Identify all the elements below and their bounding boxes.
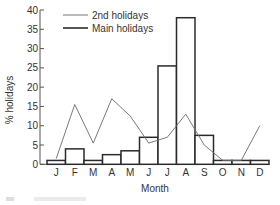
y-tick-label: 30 (27, 43, 39, 54)
x-tick-label: D (256, 167, 263, 178)
y-axis: 0510152025303540 (27, 5, 47, 170)
bar-0 (47, 160, 66, 164)
x-tick-label: A (108, 167, 115, 178)
y-tick-label: 0 (32, 159, 38, 170)
bar-7 (177, 18, 196, 165)
x-tick-label: J (146, 167, 151, 178)
y-tick-label: 15 (27, 101, 39, 112)
x-tick-label: M (89, 167, 97, 178)
x-tick-label: M (126, 167, 134, 178)
y-tick-label: 10 (27, 120, 39, 131)
y-tick-label: 40 (27, 5, 39, 16)
x-tick-label: O (219, 167, 227, 178)
x-axis: JFMAMJJASOND (54, 167, 264, 178)
main-holidays-bars (47, 18, 269, 165)
x-tick-label: J (165, 167, 170, 178)
legend: 2nd holidaysMain holidays (63, 10, 153, 34)
bar-3 (103, 155, 122, 165)
bar-4 (121, 151, 140, 165)
bar-1 (66, 149, 85, 164)
x-axis-label: Month (141, 183, 169, 194)
y-tick-label: 35 (27, 24, 39, 35)
x-tick-label: J (54, 167, 59, 178)
y-tick-label: 20 (27, 82, 39, 93)
figure-caption-fragment (6, 197, 86, 201)
holidays-chart: 0510152025303540 JFMAMJJASOND 2nd holida… (0, 0, 280, 205)
x-tick-label: S (201, 167, 208, 178)
bar-2 (84, 160, 103, 164)
legend-label-main: Main holidays (92, 23, 153, 34)
bar-10 (232, 160, 251, 164)
y-tick-label: 25 (27, 62, 39, 73)
bar-6 (158, 66, 177, 164)
x-tick-label: A (182, 167, 189, 178)
bar-11 (251, 160, 270, 164)
bar-9 (214, 160, 233, 164)
chart-canvas: 0510152025303540 JFMAMJJASOND 2nd holida… (0, 0, 280, 205)
x-tick-label: F (72, 167, 78, 178)
legend-label-2nd: 2nd holidays (92, 10, 148, 21)
x-tick-label: N (238, 167, 245, 178)
y-axis-label: % holidays (4, 76, 15, 124)
y-tick-label: 5 (32, 140, 38, 151)
